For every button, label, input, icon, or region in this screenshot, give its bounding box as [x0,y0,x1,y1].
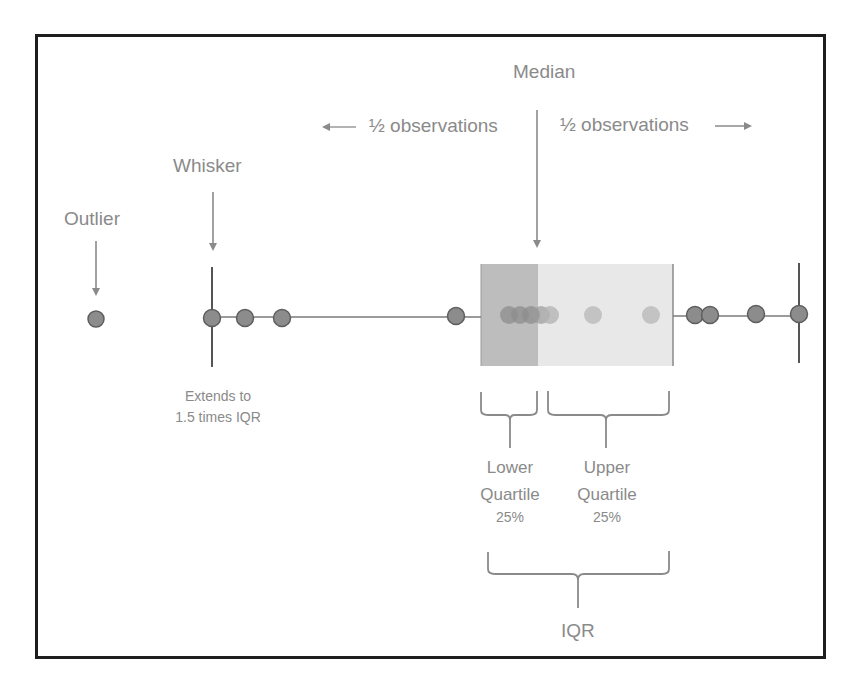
whisker-note: Extends to 1.5 times IQR [153,386,283,428]
whisker-note-line1: Extends to [153,386,283,407]
upper-quartile-percent: 25% [559,508,655,526]
lower-quartile-line1: Lower [462,454,558,481]
whisker-note-line2: 1.5 times IQR [153,407,283,428]
lower-quartile-line2: Quartile [462,481,558,508]
boxplot-diagram [0,0,858,684]
upper-quartile-label: Upper Quartile 25% [559,454,655,526]
outlier-label: Outlier [64,208,120,230]
outlier-point [88,311,104,327]
lower-quartile-percent: 25% [462,508,558,526]
whisker-label: Whisker [173,155,242,177]
upper-quartile-line1: Upper [559,454,655,481]
data-points-outside [88,306,808,328]
iqr-label: IQR [561,620,595,642]
left-half-observations-label: ½ observations [369,115,498,137]
upper-quartile-line2: Quartile [559,481,655,508]
lower-quartile-brace [481,391,537,448]
iqr-brace [488,551,669,608]
right-half-observations-label: ½ observations [560,114,689,136]
upper-quartile-brace [548,391,669,448]
median-label: Median [513,61,575,83]
lower-quartile-label: Lower Quartile 25% [462,454,558,526]
